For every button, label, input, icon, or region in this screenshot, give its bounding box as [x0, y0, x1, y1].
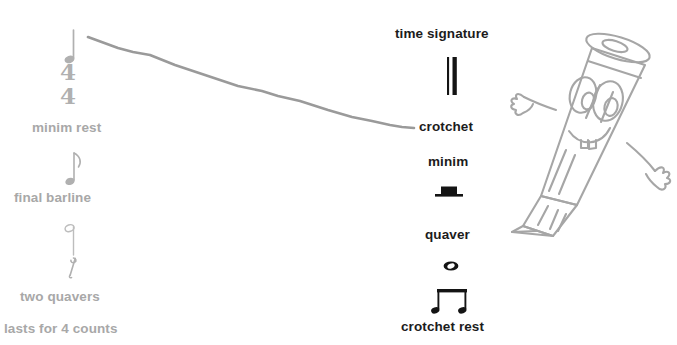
right-label-crotchet[interactable]: crotchet: [419, 120, 473, 134]
connector-line-layer: [0, 0, 677, 345]
left-label-two-quavers[interactable]: two quavers: [20, 290, 100, 304]
minim-rest-symbol[interactable]: [432, 184, 468, 200]
right-label-crotchet-rest[interactable]: crotchet rest: [401, 320, 484, 334]
semibreve-icon: [440, 258, 462, 274]
cartoon-pencil-icon: [511, 28, 670, 236]
match-line-crotchet: [88, 37, 414, 128]
left-label-minim-rest[interactable]: minim rest: [32, 121, 101, 135]
right-label-time-signature[interactable]: time signature: [395, 27, 489, 41]
pencil-character: [0, 0, 677, 345]
quaver-rest-symbol[interactable]: [60, 252, 90, 286]
quaver-note-icon: [60, 148, 94, 190]
left-label-lasts-for-4-counts[interactable]: lasts for 4 counts: [4, 322, 118, 336]
final-barline-icon: [442, 57, 464, 95]
right-label-minim[interactable]: minim: [428, 155, 468, 169]
time-signature-bottom-number: 4: [60, 84, 76, 107]
final-barline-symbol[interactable]: [442, 57, 464, 95]
time-signature-symbol[interactable]: 4 4: [56, 60, 90, 110]
two-quavers-icon: [429, 288, 475, 318]
quaver-note-symbol[interactable]: [60, 148, 94, 190]
minim-rest-icon: [432, 184, 468, 200]
left-label-final-barline[interactable]: final barline: [14, 191, 91, 205]
semibreve-symbol[interactable]: [440, 258, 462, 274]
quaver-rest-icon: [60, 252, 90, 286]
worksheet-canvas: 4 4 minim rest: [0, 0, 677, 345]
two-quavers-symbol[interactable]: [429, 288, 475, 318]
right-label-quaver[interactable]: quaver: [425, 228, 470, 242]
time-signature-top-number: 4: [60, 60, 76, 83]
